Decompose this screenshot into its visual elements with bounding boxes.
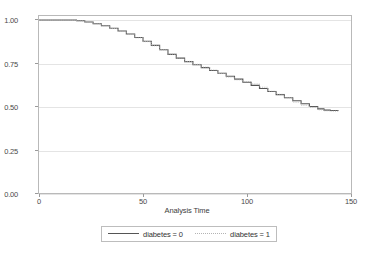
y-tick-mark-100 [35,19,38,20]
x-tick-label-150: 150 [336,197,366,206]
y-tick-mark-000 [35,193,38,194]
gridline-y-000 [39,194,351,195]
y-tick-mark-025 [35,150,38,151]
legend-item-diabetes-1: diabetes = 1 [195,230,270,239]
series-line-0 [39,20,339,110]
legend: diabetes = 0 diabetes = 1 [101,226,277,242]
legend-line-icon-diabetes-1 [195,231,226,237]
legend-item-diabetes-0: diabetes = 0 [108,230,183,239]
legend-label-diabetes-1: diabetes = 1 [230,230,270,239]
series-layer [39,16,351,193]
x-axis-title: Analysis Time [0,206,374,215]
y-tick-mark-075 [35,63,38,64]
legend-line-icon-diabetes-0 [108,231,139,237]
y-tick-label-050: 0.50 [0,103,18,112]
y-tick-label-100: 1.00 [0,16,18,25]
series-line-1 [39,20,339,111]
survival-chart: 1.00 0.75 0.50 0.25 0.00 0 50 100 150 An… [0,0,374,255]
x-tick-label-0: 0 [24,197,54,206]
x-tick-label-100: 100 [232,197,262,206]
y-tick-label-075: 0.75 [0,60,18,69]
plot-area [38,15,352,194]
y-tick-mark-050 [35,106,38,107]
y-tick-label-000: 0.00 [0,190,18,199]
legend-label-diabetes-0: diabetes = 0 [143,230,183,239]
y-tick-label-025: 0.25 [0,147,18,156]
x-tick-label-50: 50 [128,197,158,206]
